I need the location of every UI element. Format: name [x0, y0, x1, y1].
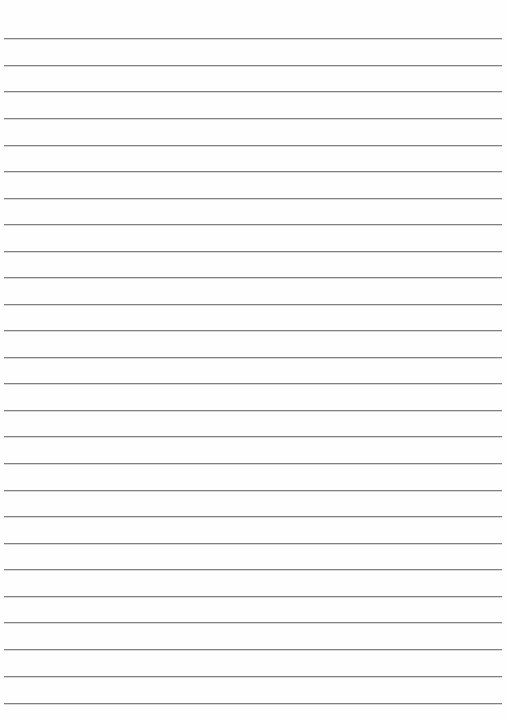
rule-line	[4, 38, 502, 39]
rule-line	[4, 145, 502, 146]
lined-paper-page	[0, 0, 506, 721]
rule-line	[4, 118, 502, 119]
rule-line	[4, 171, 502, 172]
rule-line	[4, 543, 502, 544]
rule-line	[4, 569, 502, 570]
writing-area[interactable]	[0, 0, 506, 721]
rule-line	[4, 65, 502, 66]
rule-line	[4, 463, 502, 464]
rule-line	[4, 383, 502, 384]
rule-line	[4, 251, 502, 252]
rule-line	[4, 490, 502, 491]
rule-line	[4, 277, 502, 278]
rule-line	[4, 91, 502, 92]
rule-line	[4, 622, 502, 623]
rule-line	[4, 516, 502, 517]
rule-line	[4, 649, 502, 650]
rule-line	[4, 703, 502, 704]
rule-line	[4, 198, 502, 199]
rule-line	[4, 410, 502, 411]
rule-line	[4, 357, 502, 358]
rule-line	[4, 330, 502, 331]
rule-line	[4, 596, 502, 597]
rule-line	[4, 676, 502, 677]
rule-line	[4, 436, 502, 437]
rule-line	[4, 304, 502, 305]
rule-line	[4, 224, 502, 225]
